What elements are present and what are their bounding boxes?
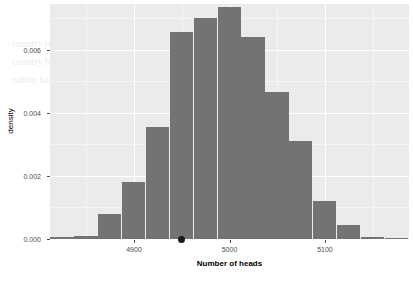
- x-axis-label: Number of heads: [50, 259, 409, 268]
- histogram-bar: [122, 182, 145, 239]
- histogram-bar: [361, 237, 384, 239]
- histogram-bar: [313, 201, 336, 239]
- histogram-bar: [218, 7, 241, 239]
- histogram-bar: [98, 214, 121, 239]
- histogram-bar: [265, 92, 288, 239]
- histogram-figure: 0.0000.0020.0040.006 density Number of h…: [0, 0, 413, 285]
- y-tick-label: 0.006: [23, 46, 41, 53]
- x-gridline-minor: [373, 4, 374, 239]
- histogram-bar: [146, 127, 169, 239]
- y-tick-mark: [47, 113, 50, 114]
- y-axis-label-wrap: density: [12, 0, 13, 285]
- x-tick-label: 5000: [222, 246, 238, 253]
- x-tick-mark: [134, 240, 135, 243]
- x-tick-mark: [230, 240, 231, 243]
- histogram-bar: [241, 37, 264, 239]
- histogram-bar: [50, 237, 73, 239]
- y-tick-label: 0.004: [23, 109, 41, 116]
- x-tick-label: 4900: [126, 246, 142, 253]
- histogram-bar: [337, 225, 360, 239]
- histogram-bar: [289, 141, 312, 239]
- y-tick-label: 0.000: [23, 236, 41, 243]
- histogram-bar: [170, 32, 193, 239]
- x-tick-mark: [325, 240, 326, 243]
- y-axis-label: density: [6, 91, 15, 151]
- observed-value-point-marker: [178, 236, 185, 243]
- y-tick-mark: [47, 50, 50, 51]
- x-gridline-minor: [86, 4, 87, 239]
- histogram-bar: [194, 18, 217, 239]
- y-tick-mark: [47, 176, 50, 177]
- histogram-bar: [74, 236, 97, 239]
- histogram-bar: [385, 238, 408, 239]
- y-tick-mark: [47, 239, 50, 240]
- plot-panel: [50, 4, 409, 239]
- x-tick-label: 5100: [317, 246, 333, 253]
- y-tick-label: 0.002: [23, 172, 41, 179]
